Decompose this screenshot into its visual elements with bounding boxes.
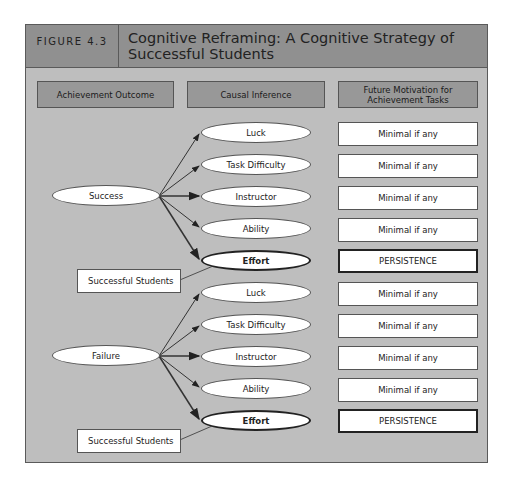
motivation-box: Minimal if any [338, 218, 478, 242]
inference-task-difficulty: Task Difficulty [201, 314, 311, 335]
motivation-box: Minimal if any [338, 122, 478, 146]
motivation-box: Minimal if any [338, 314, 478, 338]
inference-ability: Ability [201, 218, 311, 239]
motivation-box: Minimal if any [338, 154, 478, 178]
motivation-box: Minimal if any [338, 186, 478, 210]
motivation-persistence: PERSISTENCE [338, 249, 478, 273]
inference-instructor: Instructor [201, 346, 311, 367]
motivation-box: Minimal if any [338, 346, 478, 370]
inference-luck: Luck [201, 282, 311, 303]
inference-task-difficulty: Task Difficulty [201, 154, 311, 175]
inference-instructor: Instructor [201, 186, 311, 207]
inference-effort: Effort [201, 250, 311, 271]
motivation-box: Minimal if any [338, 378, 478, 402]
outcome-success: Success [52, 185, 160, 206]
motivation-box: Minimal if any [338, 282, 478, 306]
annotation-successful-students: Successful Students [77, 269, 181, 293]
figure-frame: FIGURE 4.3 Cognitive Reframing: A Cognit… [25, 24, 488, 463]
inference-effort: Effort [201, 410, 311, 431]
inference-ability: Ability [201, 378, 311, 399]
inference-luck: Luck [201, 122, 311, 143]
annotation-successful-students: Successful Students [77, 429, 181, 453]
outcome-failure: Failure [52, 345, 160, 366]
motivation-persistence: PERSISTENCE [338, 409, 478, 433]
